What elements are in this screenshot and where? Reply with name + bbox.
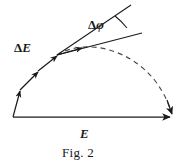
dashed-arc-path xyxy=(57,47,171,112)
figure-container: ΔE E Δφ Fig. 2 xyxy=(0,0,182,165)
figure-caption: Fig. 2 xyxy=(62,146,94,159)
tangent-ray-lower xyxy=(57,33,142,55)
increment-vector-1 xyxy=(13,91,20,117)
label-delta-e: ΔE xyxy=(14,41,31,54)
arc-end-arrow xyxy=(167,100,172,114)
label-resultant-e: E xyxy=(80,127,89,140)
phi-symbol: φ xyxy=(96,17,104,32)
increment-vector-2 xyxy=(20,72,38,90)
dashed-arc-locus xyxy=(57,47,172,114)
increment-vector-chain xyxy=(13,48,82,117)
increment-vector-3 xyxy=(38,56,57,71)
label-delta-phi: Δφ xyxy=(88,18,104,31)
e-symbol-1: E xyxy=(22,40,31,55)
angle-arc-marker xyxy=(115,16,127,28)
